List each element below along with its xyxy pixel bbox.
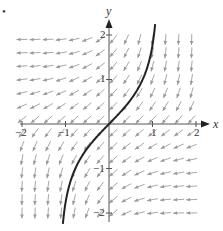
arrowhead-icon xyxy=(160,185,164,189)
x-axis-label: x xyxy=(212,117,219,131)
arrowhead-icon xyxy=(190,67,194,71)
arrowhead-icon xyxy=(33,174,37,178)
arrowhead-icon xyxy=(71,146,75,150)
arrowhead-icon xyxy=(177,41,181,45)
arrowhead-icon xyxy=(72,187,75,191)
arrowhead-icon xyxy=(17,51,21,55)
arrowhead-icon xyxy=(149,106,153,110)
arrowhead-icon xyxy=(187,145,191,148)
arrowhead-icon xyxy=(20,161,24,165)
arrowhead-icon xyxy=(134,185,138,188)
arrowhead-icon xyxy=(123,80,127,84)
x-tick-label-1: 1 xyxy=(151,126,157,138)
arrowhead-icon xyxy=(56,51,60,55)
arrowhead-icon xyxy=(33,214,37,218)
arrowhead-icon xyxy=(190,41,194,45)
arrowhead-icon xyxy=(20,147,23,151)
arrowhead-icon xyxy=(160,158,164,161)
arrowhead-icon xyxy=(59,201,63,205)
arrowhead-icon xyxy=(186,198,190,202)
arrowhead-icon xyxy=(150,80,153,84)
arrowhead-icon xyxy=(186,185,190,189)
arrowhead-icon xyxy=(33,201,37,205)
x-tick-label-neg2: −2 xyxy=(15,126,27,138)
arrowhead-icon xyxy=(32,133,36,137)
arrowhead-icon xyxy=(173,198,177,202)
arrowhead-icon xyxy=(164,41,168,45)
arrowhead-icon xyxy=(160,211,164,215)
arrowhead-icon xyxy=(17,64,21,68)
arrowhead-icon xyxy=(164,67,168,71)
arrowhead-icon xyxy=(147,172,151,175)
arrowhead-icon xyxy=(30,92,34,95)
y-tick-label-2: 2 xyxy=(100,28,106,40)
arrowhead-icon xyxy=(20,214,24,218)
y-tick-label-neg2: −2 xyxy=(93,206,105,218)
arrowhead-icon xyxy=(177,54,181,58)
arrowhead-icon xyxy=(173,211,177,215)
arrowhead-icon xyxy=(59,174,62,178)
arrowhead-icon xyxy=(177,81,181,85)
arrowhead-icon xyxy=(46,160,49,164)
y-axis-label: y xyxy=(105,4,112,18)
arrowhead-icon xyxy=(187,132,191,136)
x-tick-label-neg1: −1 xyxy=(58,126,70,138)
y-tick-label-1: 1 xyxy=(100,72,106,84)
arrowhead-icon xyxy=(173,171,177,175)
arrowhead-icon xyxy=(69,65,73,68)
arrowhead-icon xyxy=(43,38,47,42)
arrowhead-icon xyxy=(30,78,34,82)
arrowhead-icon xyxy=(82,38,86,41)
arrowhead-icon xyxy=(176,94,179,98)
arrowhead-icon xyxy=(83,92,87,96)
arrowhead-icon xyxy=(43,65,47,69)
y-axis-arrowhead-icon xyxy=(106,19,113,28)
arrowhead-icon xyxy=(85,214,88,218)
arrowhead-icon xyxy=(186,158,190,162)
x-axis xyxy=(20,121,210,128)
slope-field-figure: • x y −2 −1 1 2 2 1 −1 −2 xyxy=(0,0,223,231)
arrowhead-icon xyxy=(56,78,60,81)
x-axis-arrowhead-icon xyxy=(201,121,210,128)
arrowhead-icon xyxy=(59,187,63,191)
arrowhead-icon xyxy=(137,54,140,58)
arrowhead-icon xyxy=(72,214,76,218)
arrowhead-icon xyxy=(20,188,24,192)
arrowhead-icon xyxy=(46,214,50,218)
x-tick-label-2: 2 xyxy=(194,126,200,138)
arrowhead-icon xyxy=(84,160,88,164)
arrowhead-icon xyxy=(17,38,21,42)
arrowhead-icon xyxy=(43,92,47,95)
arrowhead-icon xyxy=(134,198,138,201)
arrowhead-icon xyxy=(69,38,73,42)
arrowhead-icon xyxy=(30,51,34,55)
figure-bullet: • xyxy=(2,5,6,17)
arrowhead-icon xyxy=(20,201,24,205)
arrowhead-icon xyxy=(97,200,101,204)
arrowhead-icon xyxy=(147,198,151,202)
arrowhead-icon xyxy=(186,211,190,215)
y-tick-label-neg1: −1 xyxy=(93,162,105,174)
arrowhead-icon xyxy=(46,174,50,178)
arrowhead-icon xyxy=(30,38,34,42)
arrowhead-icon xyxy=(190,54,194,58)
arrowhead-icon xyxy=(135,146,139,150)
